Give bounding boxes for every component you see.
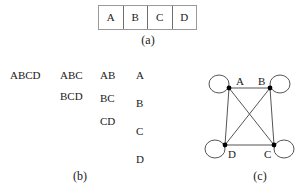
self-loop-B [270, 75, 290, 93]
panel-a-table: A B C D [98, 5, 197, 30]
list-item: B [136, 98, 154, 109]
panel-c-caption: (c) [230, 170, 290, 182]
list-item: BC [100, 93, 126, 104]
node-C [272, 143, 277, 148]
list-item: ABC [60, 70, 96, 81]
table-cell: D [173, 6, 197, 29]
edge-A-D [225, 88, 229, 145]
node-A [227, 86, 232, 91]
node-label-A: A [236, 75, 244, 87]
subset-column-4: ABCD [10, 70, 54, 99]
subset-column-2: AB BC CD [100, 70, 126, 139]
table-cell: C [148, 6, 173, 29]
node-label-B: B [258, 75, 265, 87]
self-loop-A [209, 75, 229, 93]
list-item: CD [100, 116, 126, 127]
edge-B-D [225, 88, 270, 145]
list-item: D [136, 154, 154, 165]
panel-c-graph: A B D C [200, 70, 298, 170]
graph-edges [225, 88, 274, 145]
edge-B-C [270, 88, 274, 145]
self-loop-D [205, 140, 225, 158]
panel-b-caption: (b) [50, 170, 110, 182]
panel-a-caption: (a) [118, 34, 178, 46]
subset-column-3: ABC BCD [60, 70, 96, 112]
subset-column-1: A B C D [136, 70, 154, 182]
panel-b-subset-lattice: ABCD ABC BCD AB BC CD A B C D [0, 70, 170, 170]
edge-A-C [229, 88, 274, 145]
list-item: AB [100, 70, 126, 81]
node-D [223, 143, 228, 148]
node-B [268, 86, 273, 91]
table-cell: B [124, 6, 149, 29]
list-item: C [136, 126, 154, 137]
node-label-D: D [228, 148, 236, 160]
graph-self-loops [205, 75, 294, 158]
list-item: A [136, 70, 154, 81]
list-item: BCD [60, 91, 96, 102]
node-label-C: C [264, 148, 271, 160]
list-item: ABCD [10, 70, 54, 81]
table-cell: A [99, 6, 124, 29]
graph-svg: A B D C [200, 70, 298, 170]
self-loop-C [274, 140, 294, 158]
